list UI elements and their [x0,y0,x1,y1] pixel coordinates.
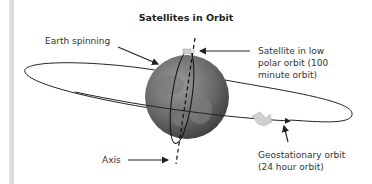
label-geostationary-2: (24 hour orbit) [258,161,324,173]
label-low-polar-3: minute orbit) [258,69,317,81]
geostationary-satellite-icon [252,112,272,126]
label-earth-spinning: Earth spinning [45,35,110,47]
label-axis: Axis [102,154,121,166]
geostationary-arrow [284,126,288,142]
label-low-polar-2: polar orbit (100 [258,57,328,69]
label-low-polar-1: Satellite in low [258,45,324,57]
earth-icon [145,55,229,139]
label-geostationary-1: Geostationary orbit [258,149,345,161]
earth-spinning-arrow [118,47,158,64]
